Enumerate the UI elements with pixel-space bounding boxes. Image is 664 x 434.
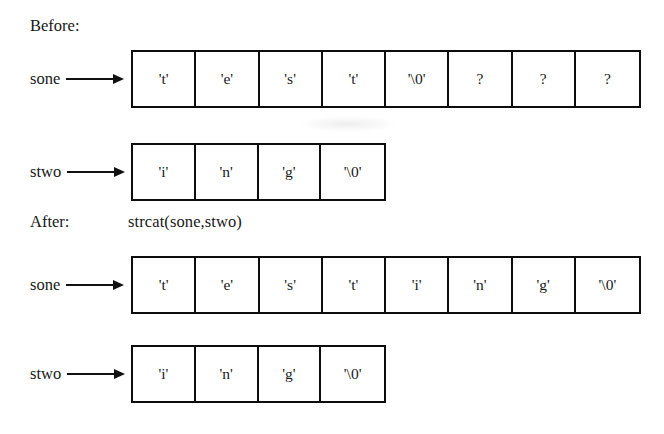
arrow-right-icon — [66, 74, 125, 84]
arrow-right-icon — [67, 167, 126, 177]
array-stwo-before: 'i''n''g''\0' — [131, 143, 386, 201]
sone-after-cell-1: 'e' — [196, 258, 259, 312]
stwo-after-cell-1: 'n' — [196, 347, 259, 401]
scan-artifact — [300, 116, 396, 132]
stwo-before-cell-2: 'g' — [259, 145, 322, 199]
array-sone-before: 't''e''s''t''\0'??? — [131, 50, 641, 108]
pointer-sone-after: sone — [30, 275, 125, 295]
sone-before-cell-0: 't' — [133, 52, 196, 106]
pointer-label-sone: sone — [30, 277, 60, 294]
arrow-right-icon — [67, 369, 126, 379]
sone-after-cell-5: 'n' — [449, 258, 512, 312]
diagram-canvas: Before: sone 't''e''s''t''\0'??? stwo 'i… — [0, 0, 664, 434]
sone-before-cell-3: 't' — [323, 52, 386, 106]
array-sone-after: 't''e''s''t''i''n''g''\0' — [131, 256, 641, 314]
sone-before-cell-2: 's' — [260, 52, 323, 106]
sone-after-cell-4: 'i' — [386, 258, 449, 312]
sone-after-cell-2: 's' — [260, 258, 323, 312]
sone-before-cell-1: 'e' — [196, 52, 259, 106]
sone-before-cell-5: ? — [449, 52, 512, 106]
stwo-before-cell-3: '\0' — [321, 145, 384, 199]
stwo-before-cell-0: 'i' — [133, 145, 196, 199]
pointer-label-stwo: stwo — [30, 366, 61, 383]
stwo-before-cell-1: 'n' — [196, 145, 259, 199]
stwo-after-cell-0: 'i' — [133, 347, 196, 401]
after-section-label: After: — [30, 214, 69, 231]
pointer-sone-before: sone — [30, 69, 125, 89]
operation-caption: strcat(sone,stwo) — [128, 214, 242, 231]
stwo-after-cell-2: 'g' — [259, 347, 322, 401]
sone-after-cell-0: 't' — [133, 258, 196, 312]
array-stwo-after: 'i''n''g''\0' — [131, 345, 386, 403]
arrow-right-icon — [66, 280, 125, 290]
pointer-label-stwo: stwo — [30, 164, 61, 181]
stwo-after-cell-3: '\0' — [321, 347, 384, 401]
sone-after-cell-3: 't' — [323, 258, 386, 312]
sone-after-cell-7: '\0' — [576, 258, 639, 312]
sone-before-cell-6: ? — [513, 52, 576, 106]
sone-before-cell-7: ? — [576, 52, 639, 106]
pointer-stwo-after: stwo — [30, 364, 126, 384]
sone-before-cell-4: '\0' — [386, 52, 449, 106]
sone-after-cell-6: 'g' — [513, 258, 576, 312]
pointer-stwo-before: stwo — [30, 162, 126, 182]
before-section-label: Before: — [30, 18, 79, 35]
pointer-label-sone: sone — [30, 71, 60, 88]
